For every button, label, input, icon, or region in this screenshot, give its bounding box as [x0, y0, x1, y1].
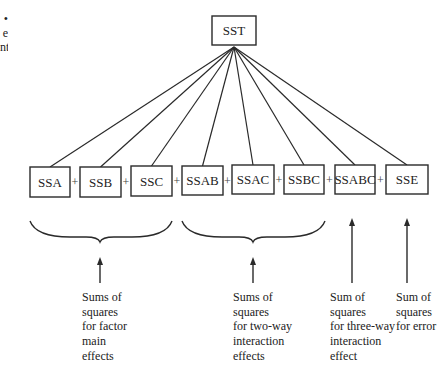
caption-line: for factor — [82, 319, 127, 334]
caption-line: for two-way — [233, 319, 292, 334]
caption-line: for error — [396, 319, 436, 334]
component-node-ssa: SSA — [30, 167, 70, 197]
connector-line — [234, 47, 355, 165]
caption-line: Sums of — [82, 290, 127, 305]
connector-lines — [50, 47, 407, 167]
plus-sign: + — [326, 173, 333, 187]
component-node-sse: SSE — [386, 165, 428, 194]
caption-line: effects — [82, 349, 127, 364]
component-label: SSBC — [288, 172, 320, 187]
caption-3: Sum ofsquaresfor three-wayinteractioneff… — [330, 290, 395, 364]
component-node-ssbc: SSBC — [284, 165, 324, 194]
caption-line: for three-way — [330, 319, 395, 334]
up-arrow-icon — [250, 257, 256, 283]
curly-brace — [30, 221, 172, 242]
plus-sign: + — [224, 174, 231, 188]
caption-line: Sum of — [396, 290, 436, 305]
caption-line: squares — [233, 305, 292, 320]
plus-sign: + — [174, 174, 181, 188]
up-arrow-icon — [349, 218, 355, 283]
plus-sign: + — [276, 173, 283, 187]
connector-line — [152, 47, 235, 166]
root-node-sst: SST — [212, 16, 256, 45]
component-node-ssac: SSAC — [232, 165, 274, 194]
caption-line: interaction — [330, 334, 395, 349]
plus-sign: + — [377, 173, 384, 187]
component-label: SSC — [140, 174, 163, 189]
caption-line: squares — [82, 305, 127, 320]
plus-sign: + — [72, 175, 79, 189]
caption-line: Sums of — [233, 290, 292, 305]
caption-line: main — [82, 334, 127, 349]
caption-4: Sum ofsquaresfor error — [396, 290, 436, 334]
component-node-ssabc: SSABC — [334, 165, 375, 194]
connector-line — [101, 47, 235, 167]
component-node-ssc: SSC — [131, 166, 172, 196]
connector-line — [234, 47, 253, 165]
caption-line: squares — [396, 305, 436, 320]
caption-line: effects — [233, 349, 292, 364]
plus-sign: + — [123, 175, 130, 189]
pointer-arrows — [97, 218, 410, 283]
component-node-ssb: SSB — [80, 167, 121, 197]
component-label: SSE — [396, 172, 418, 187]
connector-line — [234, 47, 304, 165]
up-arrow-icon — [97, 257, 103, 283]
connector-line — [234, 47, 407, 165]
caption-line: interaction — [233, 334, 292, 349]
component-label: SSA — [38, 175, 62, 190]
caption-line: Sum of — [330, 290, 395, 305]
component-label: SSB — [89, 175, 112, 190]
caption-line: effect — [330, 349, 395, 364]
component-label: SSAB — [186, 173, 219, 188]
component-label: SSAC — [237, 172, 270, 187]
component-label: SSABC — [334, 172, 375, 187]
component-node-ssab: SSAB — [182, 166, 223, 195]
grouping-braces — [30, 221, 325, 242]
curly-brace — [182, 221, 325, 242]
up-arrow-icon — [404, 218, 410, 283]
caption-2: Sums ofsquaresfor two-wayinteractioneffe… — [233, 290, 292, 364]
caption-line: squares — [330, 305, 395, 320]
sst-label: SST — [223, 23, 245, 38]
caption-1: Sums ofsquaresfor factormaineffects — [82, 290, 127, 364]
